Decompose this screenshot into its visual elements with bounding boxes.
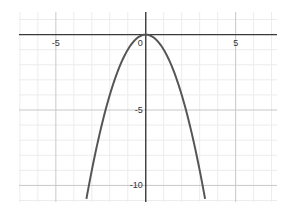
- y-tick-label: -5: [135, 105, 143, 115]
- x-tick-label: 5: [233, 38, 238, 48]
- y-tick-label: -10: [130, 180, 143, 190]
- origin-label: 0: [138, 38, 143, 48]
- function-plot: -55-5-100: [0, 0, 287, 217]
- x-tick-label: -5: [52, 38, 60, 48]
- tick-labels: -55-5-100: [52, 38, 238, 191]
